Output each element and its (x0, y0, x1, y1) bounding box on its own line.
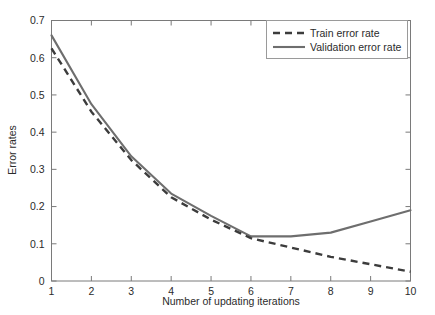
legend-label-train: Train error rate (310, 27, 380, 39)
x-tick-label: 1 (49, 285, 55, 297)
y-tick-label: 0.4 (30, 126, 45, 138)
y-tick-label: 0.1 (30, 238, 45, 250)
x-axis-title: Number of updating iterations (162, 295, 300, 307)
x-tick-label: 2 (88, 285, 94, 297)
y-tick-label: 0.7 (30, 14, 45, 26)
legend: Train error rate Validation error rate (267, 21, 408, 59)
x-tick-label: 10 (405, 285, 417, 297)
x-tick-label: 3 (128, 285, 134, 297)
y-tick-label: 0.5 (30, 89, 45, 101)
y-tick-label: 0 (39, 275, 45, 287)
y-tick-label: 0.3 (30, 163, 45, 175)
error-rate-line-chart: 00.10.20.30.40.50.60.7 12345678910 Numbe… (0, 0, 435, 315)
figure-canvas: 00.10.20.30.40.50.60.7 12345678910 Numbe… (0, 0, 435, 315)
y-tick-label: 0.2 (30, 200, 45, 212)
y-axis-title: Error rates (6, 125, 18, 175)
x-tick-label: 9 (368, 285, 374, 297)
x-tick-label: 8 (328, 285, 334, 297)
y-tick-label: 0.6 (30, 52, 45, 64)
legend-label-validation: Validation error rate (310, 41, 402, 53)
